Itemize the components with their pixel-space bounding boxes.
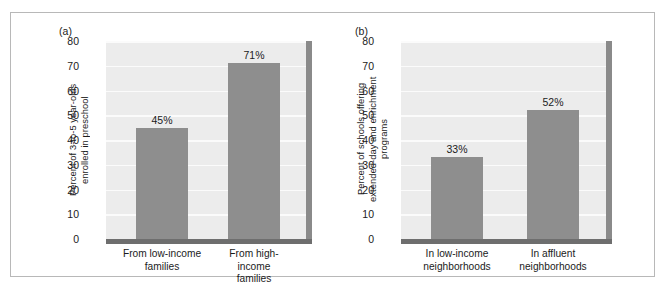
plot-right-wall-a [306,41,312,239]
gridline [401,66,606,68]
y-tick-label: 80 [362,35,374,47]
bar-value-label: 33% [446,143,467,155]
x-category-label: From low-income families [123,248,201,273]
y-tick-label: 20 [362,184,374,196]
y-tick-label: 50 [362,109,374,121]
y-tick-label: 60 [67,85,79,97]
chart-panel-b: (b) Percent of schools offering extended… [333,13,655,278]
bar [136,128,188,239]
y-tick-label: 70 [67,60,79,72]
x-axis-line-a [106,239,312,244]
y-tick-label: 50 [67,109,79,121]
plot-right-wall-b [606,41,612,239]
y-tick-label: 20 [67,184,79,196]
gridline [401,41,606,43]
y-axis-tick-labels-b: 01020304050607080 [354,13,374,278]
gridline [106,41,306,43]
bar-value-label: 71% [243,49,264,61]
y-tick-label: 40 [362,134,374,146]
y-tick-label: 10 [67,208,79,220]
bar [527,110,579,239]
x-category-label: From high-income families [215,248,294,286]
bar [431,157,483,239]
bar-value-label: 45% [151,114,172,126]
y-tick-label: 10 [362,208,374,220]
y-tick-label: 40 [67,134,79,146]
gridline [401,91,606,93]
y-axis-tick-labels-a: 01020304050607080 [59,13,79,278]
figure-frame: (a) Percent of 3-to-5 year-olds enrolled… [10,12,655,277]
bar [228,63,280,239]
y-tick-label: 30 [362,159,374,171]
y-tick-label: 30 [67,159,79,171]
x-category-label: In affluent neighborhoods [519,248,586,273]
chart-panel-a: (a) Percent of 3-to-5 year-olds enrolled… [11,13,333,278]
y-tick-label: 0 [73,233,79,245]
bar-value-label: 52% [542,96,563,108]
y-tick-label: 70 [362,60,374,72]
x-category-label: In low-income neighborhoods [423,248,490,273]
x-axis-line-b [401,239,612,244]
y-tick-label: 80 [67,35,79,47]
y-tick-label: 0 [368,233,374,245]
y-tick-label: 60 [362,85,374,97]
